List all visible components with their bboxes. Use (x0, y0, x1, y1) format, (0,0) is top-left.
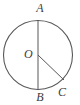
geometry-figure: A B C O (0, 0, 80, 105)
point-label-b: B (0, 91, 80, 103)
point-label-o: O (24, 48, 33, 60)
segment-radius-oc (38, 55, 64, 80)
point-label-a: A (0, 2, 80, 14)
point-label-c: C (58, 86, 66, 98)
